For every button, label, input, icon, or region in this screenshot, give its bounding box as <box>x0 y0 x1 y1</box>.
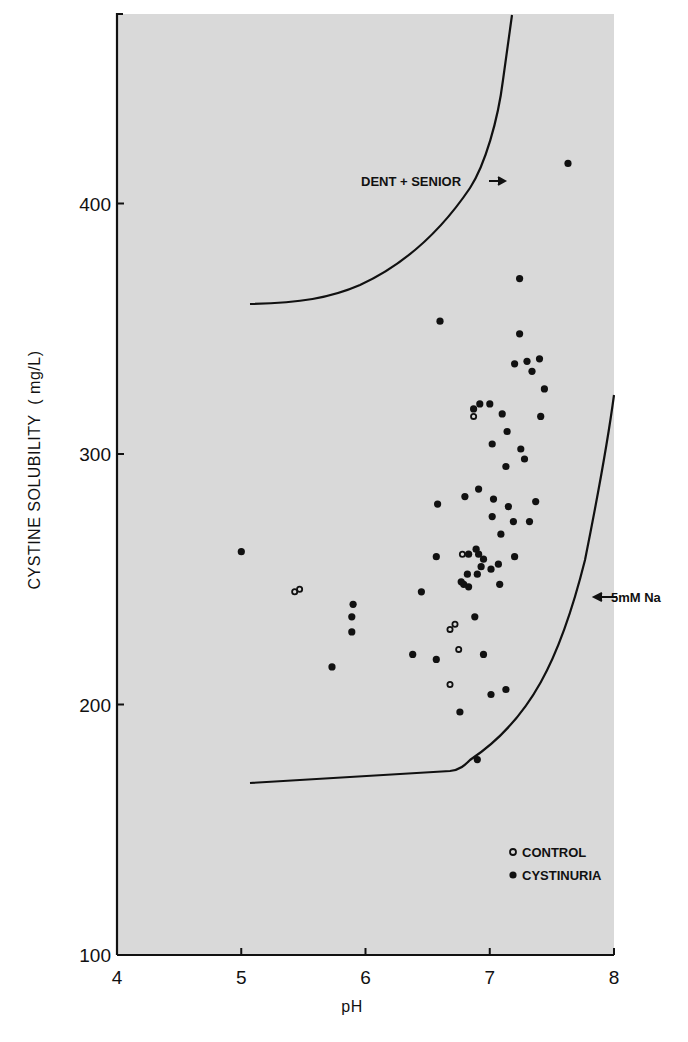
cystinuria-point <box>510 518 517 525</box>
cystinuria-point <box>517 445 524 452</box>
cystinuria-point <box>537 413 544 420</box>
cystinuria-point <box>409 651 416 658</box>
x-tick-label: 6 <box>360 967 371 988</box>
cystinuria-point <box>511 553 518 560</box>
cystinuria-point <box>505 503 512 510</box>
cystinuria-point <box>474 571 481 578</box>
cystinuria-point <box>504 428 511 435</box>
cystinuria-point <box>564 160 571 167</box>
cystinuria-point <box>434 501 441 508</box>
cystinuria-point <box>478 563 485 570</box>
cystinuria-point <box>350 601 357 608</box>
legend-control-label: CONTROL <box>522 845 586 860</box>
y-tick-label: 300 <box>79 444 111 465</box>
cystinuria-point <box>516 275 523 282</box>
cystinuria-point <box>532 498 539 505</box>
cystinuria-point <box>486 400 493 407</box>
cystinuria-point <box>476 400 483 407</box>
cystinuria-point <box>502 686 509 693</box>
cystinuria-point <box>526 518 533 525</box>
y-tick-label: 200 <box>79 695 111 716</box>
y-tick-label: 100 <box>79 945 111 966</box>
cystinuria-point <box>490 496 497 503</box>
cystinuria-point <box>487 691 494 698</box>
cystinuria-point <box>516 330 523 337</box>
cystinuria-point <box>496 581 503 588</box>
cystinuria-point <box>489 440 496 447</box>
y-tick-labels: 100200300400 <box>79 194 111 967</box>
cystinuria-point <box>511 360 518 367</box>
5mm-na-label: 5mM Na <box>611 590 662 605</box>
cystinuria-point <box>348 628 355 635</box>
cystinuria-point <box>471 613 478 620</box>
cystinuria-point <box>497 531 504 538</box>
cystinuria-point <box>480 556 487 563</box>
cystinuria-point <box>528 368 535 375</box>
cystinuria-point <box>456 708 463 715</box>
cystinuria-point <box>458 578 465 585</box>
cystinuria-point <box>238 548 245 555</box>
cystinuria-point <box>348 613 355 620</box>
x-tick-label: 5 <box>236 967 247 988</box>
cystinuria-point <box>433 553 440 560</box>
dent-senior-label: DENT + SENIOR <box>361 174 462 189</box>
x-axis-title: pH <box>341 998 362 1015</box>
cystinuria-point <box>461 493 468 500</box>
cystinuria-point <box>418 588 425 595</box>
cystinuria-point <box>433 656 440 663</box>
plot-area <box>117 14 614 955</box>
x-tick-label: 4 <box>112 967 123 988</box>
cystinuria-point <box>541 385 548 392</box>
x-tick-label: 8 <box>609 967 620 988</box>
x-tick-label: 7 <box>484 967 495 988</box>
y-axis-title: CYSTINE SOLUBILITY ( mg/L) <box>26 350 43 589</box>
cystinuria-point <box>480 651 487 658</box>
cystinuria-point <box>470 405 477 412</box>
cystinuria-point <box>487 566 494 573</box>
cystinuria-point <box>465 583 472 590</box>
cystinuria-point <box>499 410 506 417</box>
cystinuria-point <box>536 355 543 362</box>
legend-cystinuria-marker <box>509 871 516 878</box>
legend-cystinuria-label: CYSTINURIA <box>522 868 602 883</box>
cystinuria-point <box>464 571 471 578</box>
y-tick-label: 400 <box>79 194 111 215</box>
x-tick-labels: 45678 <box>112 967 620 988</box>
cystinuria-point <box>521 455 528 462</box>
cystinuria-point <box>328 663 335 670</box>
cystinuria-point <box>523 358 530 365</box>
cystinuria-point <box>502 463 509 470</box>
cystinuria-point <box>495 561 502 568</box>
cystinuria-point <box>436 318 443 325</box>
cystinuria-point <box>475 486 482 493</box>
cystine-solubility-chart: 45678 100200300400 pH CYSTINE SOLUBILITY… <box>0 0 688 1042</box>
cystinuria-point <box>489 513 496 520</box>
cystinuria-point <box>474 756 481 763</box>
cystinuria-point <box>465 551 472 558</box>
